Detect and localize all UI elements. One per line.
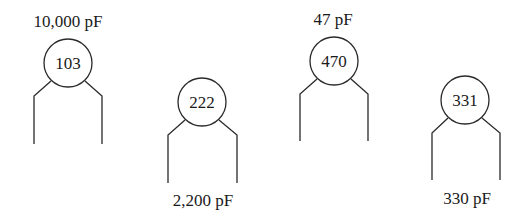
capacitor-code: 331 xyxy=(452,91,478,110)
capacitance-label: 47 pF xyxy=(313,10,352,29)
lead-left xyxy=(432,118,448,180)
capacitor-code: 103 xyxy=(55,54,81,73)
lead-left xyxy=(300,79,317,141)
lead-left xyxy=(34,81,51,144)
capacitor-code: 222 xyxy=(189,93,215,112)
capacitor-code: 470 xyxy=(321,52,347,71)
lead-right xyxy=(351,79,368,141)
capacitance-label: 10,000 pF xyxy=(34,12,103,31)
capacitor-470: 47047 pF xyxy=(300,10,368,141)
capacitance-label: 330 pF xyxy=(443,189,491,208)
lead-right xyxy=(219,120,237,183)
capacitor-222: 2222,200 pF xyxy=(168,78,237,210)
lead-right xyxy=(85,81,102,144)
lead-left xyxy=(168,120,185,183)
capacitor-331: 331330 pF xyxy=(432,76,500,208)
capacitor-diagram: 10310,000 pF 2222,200 pF 47047 pF 331330… xyxy=(0,0,530,221)
lead-right xyxy=(482,118,500,180)
capacitance-label: 2,200 pF xyxy=(173,191,233,210)
capacitor-103: 10310,000 pF xyxy=(34,12,103,144)
